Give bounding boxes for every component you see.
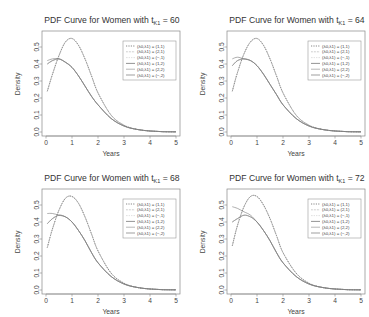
- panel-title: PDF Curve for Women with tK1 = 60: [44, 15, 180, 26]
- y-tick-label: 0.0: [33, 127, 40, 136]
- y-tick-label: 0.0: [218, 127, 225, 136]
- y-axis-label: Density: [199, 72, 207, 95]
- legend-entry: (λ0,λ1) = (1,2): [322, 219, 350, 224]
- panel-3: PDF Curve for Women with tK1 = 68012345Y…: [0, 158, 184, 316]
- x-tick-label: 4: [148, 297, 152, 304]
- legend-entry: (λ0,λ1) = (2,2): [137, 225, 165, 230]
- x-tick-label: 2: [96, 139, 100, 146]
- y-tick-label: 0.1: [33, 110, 40, 119]
- legend-entry: (λ0,λ1) = (1,1): [322, 202, 350, 207]
- x-tick-label: 1: [70, 139, 74, 146]
- panel-4: PDF Curve for Women with tK1 = 72012345Y…: [185, 158, 369, 316]
- x-tick-label: 0: [44, 139, 48, 146]
- x-tick-label: 2: [96, 297, 100, 304]
- panel-2: PDF Curve for Women with tK1 = 64012345Y…: [185, 0, 369, 158]
- y-tick-label: 0.3: [33, 76, 40, 85]
- y-tick-label: 0.2: [33, 251, 40, 260]
- x-axis-label: Years: [102, 308, 120, 315]
- x-tick-label: 1: [255, 297, 259, 304]
- x-tick-label: 5: [359, 139, 363, 146]
- x-tick-label: 3: [307, 139, 311, 146]
- x-axis-label: Years: [287, 150, 305, 157]
- y-tick-label: 0.3: [218, 76, 225, 85]
- x-tick-label: 4: [148, 139, 152, 146]
- x-tick-label: 0: [229, 139, 233, 146]
- y-tick-label: 0.4: [218, 59, 225, 68]
- legend-entry: (λ0,λ1) = (−,1): [322, 213, 350, 218]
- legend-entry: (λ0,λ1) = (2,2): [322, 67, 350, 72]
- x-tick-label: 1: [70, 297, 74, 304]
- legend-entry: (λ0,λ1) = (−,2): [322, 73, 350, 78]
- legend-entry: (λ0,λ1) = (1,2): [322, 61, 350, 66]
- y-tick-label: 0.2: [33, 93, 40, 102]
- legend-entry: (λ0,λ1) = (2,1): [322, 49, 350, 54]
- y-tick-label: 0.5: [218, 200, 225, 209]
- x-tick-label: 5: [174, 297, 178, 304]
- legend-entry: (λ0,λ1) = (2,1): [137, 49, 165, 54]
- panel-1: PDF Curve for Women with tK1 = 60012345Y…: [0, 0, 184, 158]
- y-axis-label: Density: [14, 230, 22, 253]
- legend-entry: (λ0,λ1) = (2,2): [322, 225, 350, 230]
- y-tick-label: 0.1: [218, 268, 225, 277]
- y-tick-label: 0.2: [218, 93, 225, 102]
- x-tick-label: 0: [229, 297, 233, 304]
- legend-entry: (λ0,λ1) = (2,1): [322, 207, 350, 212]
- legend-entry: (λ0,λ1) = (1,1): [322, 44, 350, 49]
- y-tick-label: 0.1: [33, 268, 40, 277]
- y-axis-label: Density: [14, 72, 22, 95]
- x-tick-label: 3: [122, 139, 126, 146]
- legend-entry: (λ0,λ1) = (−,1): [137, 55, 165, 60]
- legend-entry: (λ0,λ1) = (1,1): [137, 202, 165, 207]
- x-tick-label: 4: [333, 139, 337, 146]
- y-tick-label: 0.3: [33, 234, 40, 243]
- y-tick-label: 0.4: [218, 217, 225, 226]
- panel-title: PDF Curve for Women with tK1 = 68: [44, 173, 180, 184]
- x-tick-label: 0: [44, 297, 48, 304]
- legend-entry: (λ0,λ1) = (−,2): [137, 231, 165, 236]
- y-tick-label: 0.1: [218, 110, 225, 119]
- y-tick-label: 0.5: [33, 42, 40, 51]
- y-tick-label: 0.0: [33, 285, 40, 294]
- panel-title: PDF Curve for Women with tK1 = 72: [229, 173, 365, 184]
- legend-entry: (λ0,λ1) = (2,1): [137, 207, 165, 212]
- y-tick-label: 0.4: [33, 59, 40, 68]
- x-tick-label: 5: [174, 139, 178, 146]
- x-tick-label: 2: [281, 139, 285, 146]
- legend-entry: (λ0,λ1) = (1,2): [137, 219, 165, 224]
- x-tick-label: 4: [333, 297, 337, 304]
- y-tick-label: 0.5: [33, 200, 40, 209]
- legend-entry: (λ0,λ1) = (−,1): [137, 213, 165, 218]
- y-tick-label: 0.5: [218, 42, 225, 51]
- y-tick-label: 0.2: [218, 251, 225, 260]
- legend-entry: (λ0,λ1) = (1,2): [137, 61, 165, 66]
- y-axis-label: Density: [199, 230, 207, 253]
- x-axis-label: Years: [287, 308, 305, 315]
- legend-entry: (λ0,λ1) = (1,1): [137, 44, 165, 49]
- legend-entry: (λ0,λ1) = (−,2): [137, 73, 165, 78]
- x-tick-label: 5: [359, 297, 363, 304]
- legend-entry: (λ0,λ1) = (2,2): [137, 67, 165, 72]
- x-tick-label: 3: [307, 297, 311, 304]
- y-tick-label: 0.4: [33, 217, 40, 226]
- legend-entry: (λ0,λ1) = (−,1): [322, 55, 350, 60]
- y-tick-label: 0.0: [218, 285, 225, 294]
- legend-entry: (λ0,λ1) = (−,2): [322, 231, 350, 236]
- y-tick-label: 0.3: [218, 234, 225, 243]
- x-tick-label: 3: [122, 297, 126, 304]
- x-axis-label: Years: [102, 150, 120, 157]
- x-tick-label: 2: [281, 297, 285, 304]
- x-tick-label: 1: [255, 139, 259, 146]
- panel-title: PDF Curve for Women with tK1 = 64: [229, 15, 365, 26]
- figure-grid: PDF Curve for Women with tK1 = 60012345Y…: [0, 0, 369, 317]
